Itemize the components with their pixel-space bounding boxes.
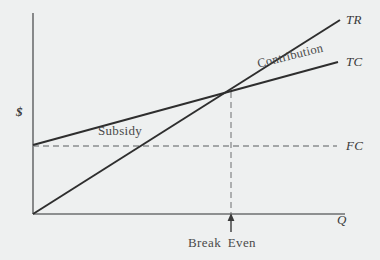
x-axis-label: Q — [337, 213, 347, 226]
total-cost-line — [33, 62, 338, 145]
break-even-arrow-icon — [228, 213, 235, 232]
y-axis-label: $ — [16, 105, 23, 118]
subsidy-annotation: Subsidy — [98, 124, 142, 137]
total-revenue-label: TR — [346, 13, 362, 26]
breakeven-chart: $ Q TR TC FC Subsidy Contribution Break … — [0, 0, 380, 260]
break-even-annotation: Break Even — [188, 236, 256, 249]
fixed-cost-label: FC — [346, 139, 363, 152]
total-cost-label: TC — [346, 55, 362, 68]
chart-svg — [0, 0, 380, 260]
